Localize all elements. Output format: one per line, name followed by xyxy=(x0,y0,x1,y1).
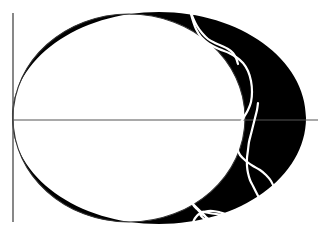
figure-root xyxy=(0,0,322,235)
crescent-figure-svg xyxy=(0,0,322,235)
